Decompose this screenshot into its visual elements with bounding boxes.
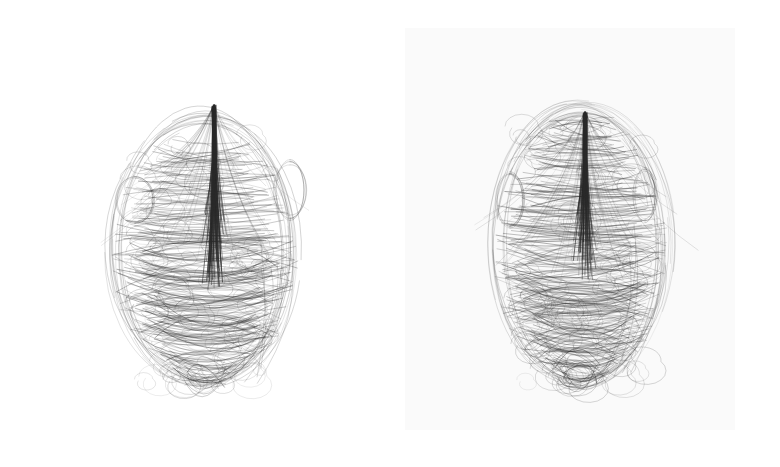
left-scribble-portrait (101, 105, 309, 399)
artwork-canvas (0, 0, 780, 467)
scribble-portraits (0, 0, 780, 467)
right-scribble-portrait (475, 100, 698, 403)
